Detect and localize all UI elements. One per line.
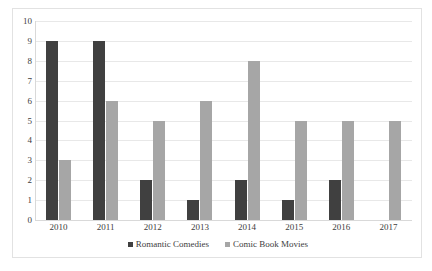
legend-label: Romantic Comedies <box>136 239 209 249</box>
x-axis-tick-label: 2010 <box>50 223 68 233</box>
x-axis-tick-labels: 20102011201220132014201520162017 <box>35 223 412 237</box>
y-axis-tick-label: 9 <box>16 36 32 45</box>
bar-group <box>318 21 365 220</box>
bar[interactable] <box>389 121 401 221</box>
y-axis-tick-label: 7 <box>16 76 32 85</box>
y-axis-tick-label: 2 <box>16 176 32 185</box>
bar-group <box>271 21 318 220</box>
bar[interactable] <box>59 160 71 220</box>
bar[interactable] <box>93 41 105 220</box>
bar[interactable] <box>282 200 294 220</box>
x-axis-tick-label: 2011 <box>97 223 115 233</box>
bar[interactable] <box>200 101 212 220</box>
y-axis-tick-label: 10 <box>16 17 32 26</box>
legend-swatch <box>225 242 230 247</box>
x-axis-tick-label: 2012 <box>144 223 162 233</box>
x-axis-tick-label: 2016 <box>332 223 350 233</box>
bar-group <box>176 21 223 220</box>
bar-group <box>224 21 271 220</box>
bar[interactable] <box>46 41 58 220</box>
bar-group <box>82 21 129 220</box>
bar[interactable] <box>329 180 341 220</box>
x-axis-tick-label: 2015 <box>285 223 303 233</box>
x-axis-tick-label: 2013 <box>191 223 209 233</box>
y-axis-tick-labels: 109876543210 <box>13 21 32 221</box>
legend-item[interactable]: Comic Book Movies <box>225 239 308 249</box>
bar[interactable] <box>140 180 152 220</box>
bar-group <box>35 21 82 220</box>
y-axis-tick-label: 3 <box>16 156 32 165</box>
legend-label: Comic Book Movies <box>233 239 308 249</box>
bar-group <box>129 21 176 220</box>
y-axis-tick-label: 5 <box>16 116 32 125</box>
plot-area <box>35 21 412 220</box>
bar[interactable] <box>235 180 247 220</box>
legend-swatch <box>128 242 133 247</box>
chart-legend: Romantic ComediesComic Book Movies <box>13 239 423 249</box>
legend-item[interactable]: Romantic Comedies <box>128 239 209 249</box>
bar[interactable] <box>342 121 354 221</box>
bar-group <box>365 21 412 220</box>
y-axis-tick-label: 4 <box>16 136 32 145</box>
value-axis-line <box>35 21 36 221</box>
bar[interactable] <box>153 121 165 221</box>
gridline <box>35 220 412 221</box>
x-axis-tick-label: 2017 <box>379 223 397 233</box>
bar[interactable] <box>248 61 260 220</box>
y-axis-tick-label: 8 <box>16 56 32 65</box>
y-axis-tick-label: 1 <box>16 196 32 205</box>
bar[interactable] <box>187 200 199 220</box>
y-axis-tick-label: 6 <box>16 96 32 105</box>
chart-container: 109876543210 201020112012201320142015201… <box>12 8 422 258</box>
bar[interactable] <box>106 101 118 220</box>
y-axis-tick-label: 0 <box>16 216 32 225</box>
x-axis-tick-label: 2014 <box>238 223 256 233</box>
bar[interactable] <box>295 121 307 221</box>
